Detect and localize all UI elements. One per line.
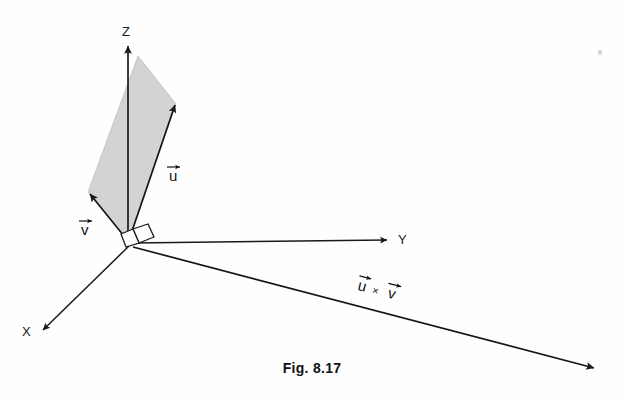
y-axis-label: Y (398, 232, 407, 247)
y-axis-line (133, 240, 387, 243)
x-axis-line (43, 246, 129, 330)
vector-cross-product-label: u × v (355, 276, 401, 303)
vector-u-label-text: u (169, 167, 177, 184)
z-axis-label: Z (122, 24, 130, 39)
vector-cross-product-diagram: Z Y X u v u × v (0, 0, 624, 402)
uv-parallelogram (88, 56, 176, 241)
vector-v-label-text: v (81, 221, 89, 238)
figure-caption: Fig. 8.17 (0, 360, 624, 376)
vector-u-label: u (167, 167, 180, 184)
cross-label-v-text: v (386, 284, 398, 302)
cross-label-times: × (371, 284, 380, 297)
cross-label-u-text: u (356, 276, 368, 295)
scan-artifact-speck (598, 50, 602, 55)
figure-container: Z Y X u v u × v Fig. 8.17 (0, 0, 624, 402)
x-axis-label: X (22, 324, 31, 339)
vector-cross-product-line (133, 247, 594, 368)
vector-v-label: v (79, 221, 92, 238)
